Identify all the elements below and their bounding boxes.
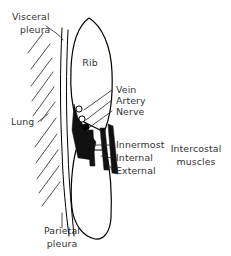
label-parietal-pleura-line2: pleura [47, 238, 77, 249]
label-lung: Lung [11, 116, 34, 127]
intercostal-diagram-canvas: Visceral pleura Rib Lung Vein Artery Ner… [0, 0, 231, 256]
label-visceral-pleura-line1: Visceral [12, 11, 50, 22]
label-external: External [116, 165, 156, 176]
anatomy-diagram: Visceral pleura Rib Lung Vein Artery Ner… [0, 0, 231, 256]
label-nerve: Nerve [116, 106, 145, 117]
label-intercostal-muscles-line1: Intercostal [171, 143, 222, 154]
label-artery: Artery [116, 95, 146, 106]
label-vein: Vein [116, 84, 136, 95]
visceral-pleura-line [61, 28, 70, 236]
nerve-bundle [83, 124, 89, 130]
label-internal: Internal [116, 152, 153, 163]
leader-lung [38, 114, 48, 122]
label-rib: Rib [82, 57, 97, 68]
vein-vessel [76, 106, 82, 112]
label-parietal-pleura-line1: Parietal [44, 225, 80, 236]
label-innermost: Innermost [116, 139, 165, 150]
label-visceral-pleura-line2: pleura [20, 24, 50, 35]
label-intercostal-muscles-line2: muscles [176, 156, 215, 167]
artery-vessel [79, 116, 85, 122]
